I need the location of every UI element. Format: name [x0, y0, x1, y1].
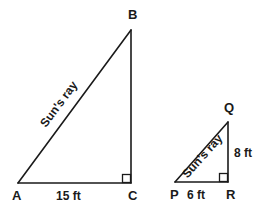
base-measure-label-ac: 15 ft	[56, 190, 81, 202]
height-measure-label-qr: 8 ft	[234, 147, 252, 159]
vertex-label-a: A	[12, 189, 21, 202]
triangle-abc-group	[18, 30, 131, 183]
vertex-label-q: Q	[224, 101, 234, 114]
segment-AB-sun-ray	[18, 30, 131, 183]
diagram-canvas: B A C 15 ft Sun's ray Q P R 6 ft 8 ft Su…	[0, 0, 264, 214]
vertex-label-b: B	[128, 8, 137, 21]
right-angle-marker-R	[220, 174, 228, 182]
vertex-label-c: C	[128, 189, 137, 202]
right-angle-marker-C	[123, 175, 131, 183]
vertex-label-r: R	[226, 188, 235, 201]
base-measure-label-pr: 6 ft	[187, 189, 205, 201]
vertex-label-p: P	[170, 188, 179, 201]
